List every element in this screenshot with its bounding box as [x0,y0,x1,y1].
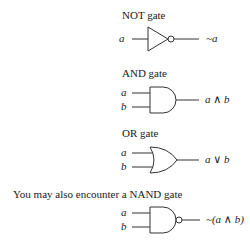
nand-input-b-label: b [121,221,127,232]
and-gate-title: AND gate [122,68,167,79]
and-body-icon [150,87,176,113]
nand-input-a-label: a [121,207,127,218]
nand-gate-symbol [132,207,200,233]
not-input-a-label: a [119,33,125,44]
and-output-label: a ∧ b [205,94,230,105]
not-output-label: ~a [206,33,217,44]
not-bubble-icon [168,36,174,42]
or-input-b-label: b [121,161,127,172]
or-body-icon [150,147,177,173]
nand-output-label: ~(a ∧ b) [206,214,244,225]
not-triangle-icon [148,27,168,51]
or-input-a-label: a [121,147,127,158]
and-gate-symbol [132,87,199,113]
not-gate-symbol [132,27,199,51]
nand-bubble-icon [176,217,182,223]
and-input-b-label: b [121,101,127,112]
nand-body-icon [150,207,176,233]
or-gate-symbol [132,147,199,173]
or-output-label: a ∨ b [205,154,230,165]
or-gate-title: OR gate [122,128,158,139]
and-input-a-label: a [121,87,127,98]
nand-intro-text: You may also encounter a NAND gate [13,189,182,200]
not-gate-title: NOT gate [122,10,165,21]
